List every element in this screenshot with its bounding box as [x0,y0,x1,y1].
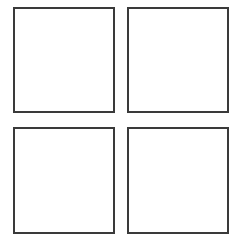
box-top-right [127,7,229,113]
box-bottom-right [127,127,229,234]
box-grid [0,0,242,240]
box-top-left [13,7,115,113]
box-bottom-left [13,127,115,234]
